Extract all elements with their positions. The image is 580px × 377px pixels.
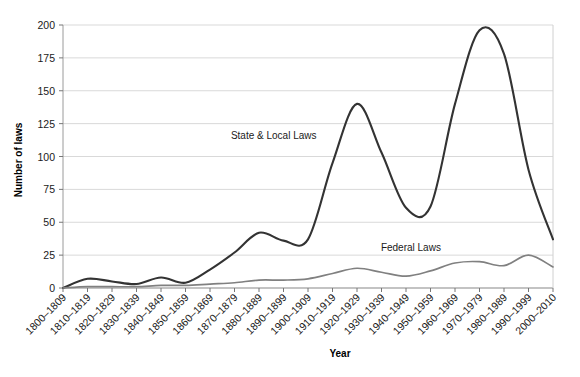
y-tick-label: 175	[37, 52, 55, 64]
chart-container: 0255075100125150175200 1800–18091810–181…	[0, 0, 580, 377]
x-axis-title: Year	[329, 348, 350, 359]
y-tick-label: 100	[37, 151, 55, 163]
y-tick-label: 200	[37, 19, 55, 31]
y-tick-label: 125	[37, 118, 55, 130]
series-annotation-federal: Federal Laws	[381, 242, 441, 253]
x-axis-ticks	[63, 288, 553, 292]
y-tick-label: 0	[49, 282, 55, 294]
line-chart: 0255075100125150175200 1800–18091810–181…	[0, 0, 580, 377]
y-tick-label: 25	[43, 249, 55, 261]
y-tick-label: 50	[43, 216, 55, 228]
y-axis-title: Number of laws	[13, 122, 24, 197]
series-annotation-state-local: State & Local Laws	[231, 130, 317, 141]
y-tick-label: 75	[43, 183, 55, 195]
y-tick-label: 150	[37, 85, 55, 97]
